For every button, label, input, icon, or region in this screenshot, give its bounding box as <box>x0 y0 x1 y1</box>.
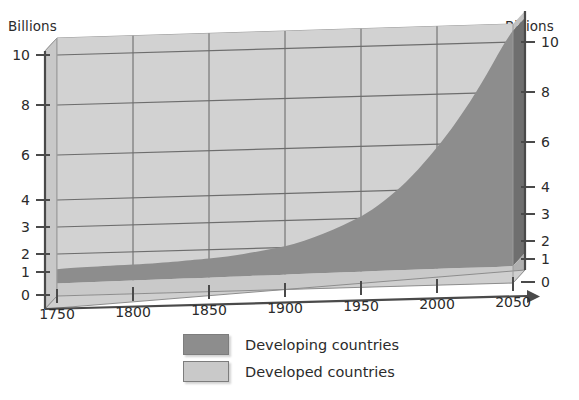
x-tick-1800: 1800 <box>106 304 160 320</box>
y-tick-right-2: 2 <box>541 233 567 249</box>
y-tick-right-0: 0 <box>541 274 567 290</box>
y-tick-left-1: 1 <box>4 264 30 280</box>
y-tick-right-4: 4 <box>541 179 567 195</box>
y-tick-right-10: 10 <box>541 34 567 50</box>
x-tick-2050: 2050 <box>486 294 540 310</box>
legend-swatch-developed <box>183 361 229 382</box>
y-tick-left-4: 4 <box>4 192 30 208</box>
y-tick-left-2: 2 <box>4 246 30 262</box>
plot-left-face <box>45 38 57 309</box>
y-tick-right-6: 6 <box>541 134 567 150</box>
y-tick-left-6: 6 <box>4 147 30 163</box>
y-tick-right-1: 1 <box>541 251 567 267</box>
legend-label-developed: Developed countries <box>245 364 395 380</box>
y-tick-left-8: 8 <box>4 97 30 113</box>
y-tick-right-8: 8 <box>541 84 567 100</box>
x-tick-1850: 1850 <box>182 302 236 318</box>
x-tick-1750: 1750 <box>30 306 84 322</box>
y-tick-left-10: 10 <box>4 47 30 63</box>
legend-label-developing: Developing countries <box>245 337 399 353</box>
y-tick-left-0: 0 <box>4 287 30 303</box>
x-tick-2000: 2000 <box>410 296 464 312</box>
legend-item-developing[interactable]: Developing countries <box>183 334 399 355</box>
y-tick-left-3: 3 <box>4 219 30 235</box>
x-tick-1900: 1900 <box>258 300 312 316</box>
x-tick-1950: 1950 <box>334 298 388 314</box>
y-tick-right-3: 3 <box>541 206 567 222</box>
legend-item-developed[interactable]: Developed countries <box>183 361 395 382</box>
legend-swatch-developing <box>183 334 229 355</box>
chart-canvas: Billions Billions <box>0 0 579 400</box>
